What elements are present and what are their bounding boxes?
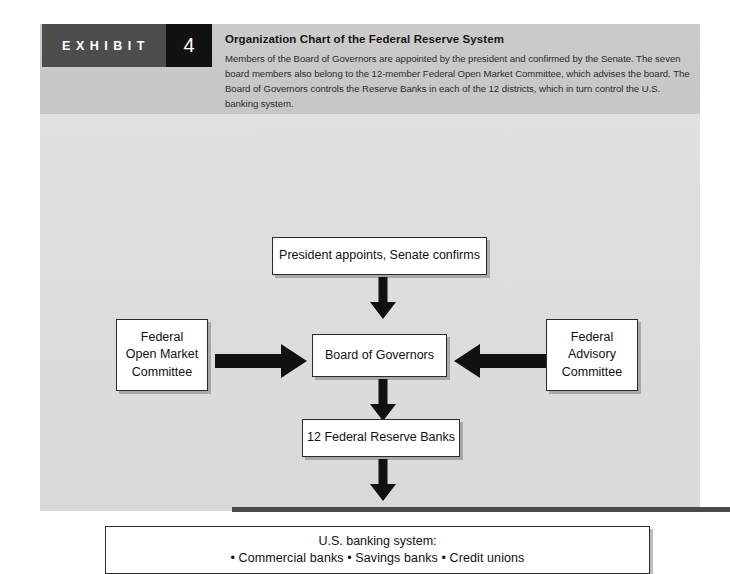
arrow-down-reserve-banks-to-banking-system [369,459,397,501]
diagram-canvas: President appoints, Senate confirms Fede… [40,114,700,511]
exhibit-header-text: Organization Chart of the Federal Reserv… [225,33,690,111]
exhibit-title: Organization Chart of the Federal Reserv… [225,33,690,45]
node-us-banking-system: U.S. banking system: • Commercial banks … [105,526,650,574]
arrow-down-president-to-board [369,277,397,319]
fomc-line-1: Federal [126,329,198,346]
arrow-right-fomc-to-board [215,344,307,378]
exhibit-panel: EXHIBIT 4 Organization Chart of the Fede… [40,24,700,511]
exhibit-number-badge: 4 [166,24,212,67]
fac-line-2: Advisory [562,346,622,363]
banking-system-members: • Commercial banks • Savings banks • Cre… [231,550,525,567]
node-federal-open-market-committee: Federal Open Market Committee [116,319,208,391]
node-12-federal-reserve-banks: 12 Federal Reserve Banks [302,419,460,457]
arrow-down-board-to-reserve-banks [369,379,397,421]
arrow-left-fac-to-board [454,344,546,378]
fac-line-1: Federal [562,329,622,346]
node-president-appoints: President appoints, Senate confirms [272,237,487,275]
fac-line-3: Committee [562,364,622,381]
exhibit-description: Members of the Board of Governors are ap… [225,52,690,111]
fomc-line-2: Open Market [126,346,198,363]
bottom-rule-divider [232,507,730,512]
node-federal-advisory-committee: Federal Advisory Committee [546,319,638,391]
banking-system-heading: U.S. banking system: [318,533,436,550]
exhibit-tag-label: EXHIBIT [42,24,166,67]
node-board-of-governors: Board of Governors [312,334,447,377]
fomc-line-3: Committee [126,364,198,381]
